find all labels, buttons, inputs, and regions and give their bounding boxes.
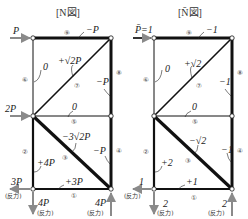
member-force: +√2P: [58, 55, 81, 66]
member-force: +1: [186, 176, 198, 187]
reaction-left-v: 2: [163, 198, 168, 209]
reaction-tag: (反力): [87, 209, 104, 217]
member-force: −√2: [189, 135, 206, 146]
reaction-tag: (反力): [208, 209, 225, 217]
member-number: ①: [71, 192, 77, 200]
member-number: ⑨: [64, 29, 70, 37]
member-number: ③: [185, 157, 191, 165]
reaction-left-h: 3P: [10, 176, 22, 187]
member-number: ③: [62, 154, 68, 162]
node: [109, 36, 113, 40]
member-force: −3√2P: [62, 131, 90, 142]
member-number: ②: [143, 148, 149, 156]
member-force: −1: [221, 144, 233, 155]
load-mid-label: 2P: [5, 103, 16, 114]
member-number: ⑥: [22, 76, 28, 84]
member-force: −P: [93, 145, 106, 156]
reaction-left-v: 4P: [38, 197, 49, 208]
member-number: ⑦: [196, 82, 202, 90]
member-force: +√2: [184, 58, 201, 69]
member-number: ⑧: [116, 69, 122, 77]
member-force: +4P: [37, 157, 55, 168]
member-force: −1: [206, 24, 218, 35]
member-force: 0: [43, 61, 48, 72]
n-diagram-title: [N図]: [56, 7, 80, 18]
node: [230, 114, 234, 118]
member-force: −P: [86, 24, 99, 35]
member-number: ②: [22, 148, 28, 156]
n-bar-diagram: [N̄図] P̄=1 1 (反力) 2 (反力) 2 (反力) ⑨ ⑥ ⑦ ⑧ …: [124, 7, 243, 217]
member-number: ⑤: [192, 118, 198, 126]
member-force: 0: [165, 63, 170, 74]
member-number: ①: [191, 194, 197, 202]
member-number: ④: [237, 147, 243, 155]
member-force: 0: [192, 101, 197, 112]
node: [230, 187, 234, 191]
node: [31, 187, 35, 191]
member-number: ⑨: [186, 29, 192, 37]
node: [109, 187, 113, 191]
node: [109, 114, 113, 118]
reaction-tag: (反力): [157, 209, 174, 217]
node: [152, 36, 156, 40]
node: [152, 114, 156, 118]
node: [152, 187, 156, 191]
reaction-tag: (反力): [37, 209, 54, 217]
member-number: ⑦: [74, 82, 80, 90]
member-force: +3P: [65, 176, 83, 187]
member-force: 0: [72, 101, 77, 112]
node: [230, 36, 234, 40]
reaction-right-v: 2: [222, 198, 227, 209]
member-force: −P: [96, 76, 109, 87]
load-top-label: P: [12, 25, 19, 36]
reaction-tag: (反力): [5, 192, 22, 200]
truss-diagrams: [N図] P 2P 3P (反力) 4P (反力) 4P (反力): [0, 0, 248, 219]
load-top-label: P̄=1: [134, 24, 153, 35]
n-bar-diagram-title: [N̄図]: [178, 7, 202, 18]
member-force: +2: [161, 157, 173, 168]
reaction-tag: (反力): [124, 192, 141, 200]
node: [31, 36, 35, 40]
member-number: ⑧: [237, 69, 243, 77]
reaction-left-h: 1: [139, 176, 144, 187]
member-number: ⑤: [71, 118, 77, 126]
member-number: ⑥: [143, 76, 149, 84]
member-force: −1: [219, 76, 231, 87]
reaction-right-v: 4P: [95, 197, 106, 208]
n-diagram: [N図] P 2P 3P (反力) 4P (反力) 4P (反力): [5, 7, 122, 217]
member-number: ④: [116, 147, 122, 155]
node: [31, 114, 35, 118]
